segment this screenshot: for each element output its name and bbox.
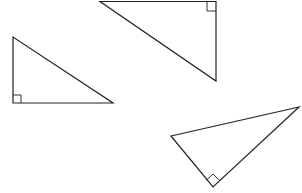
right-angle-marker <box>207 2 216 12</box>
right-angle-marker <box>13 95 21 103</box>
right-angle-marker <box>207 174 220 181</box>
triangle-left <box>13 37 113 103</box>
triangle-top <box>100 2 216 82</box>
triangle-left-outline <box>13 37 113 103</box>
triangle-top-outline <box>100 2 216 82</box>
triangle-bottom-right <box>171 107 299 187</box>
triangle-bottom-right-outline <box>171 107 299 187</box>
diagram-canvas <box>0 0 302 193</box>
